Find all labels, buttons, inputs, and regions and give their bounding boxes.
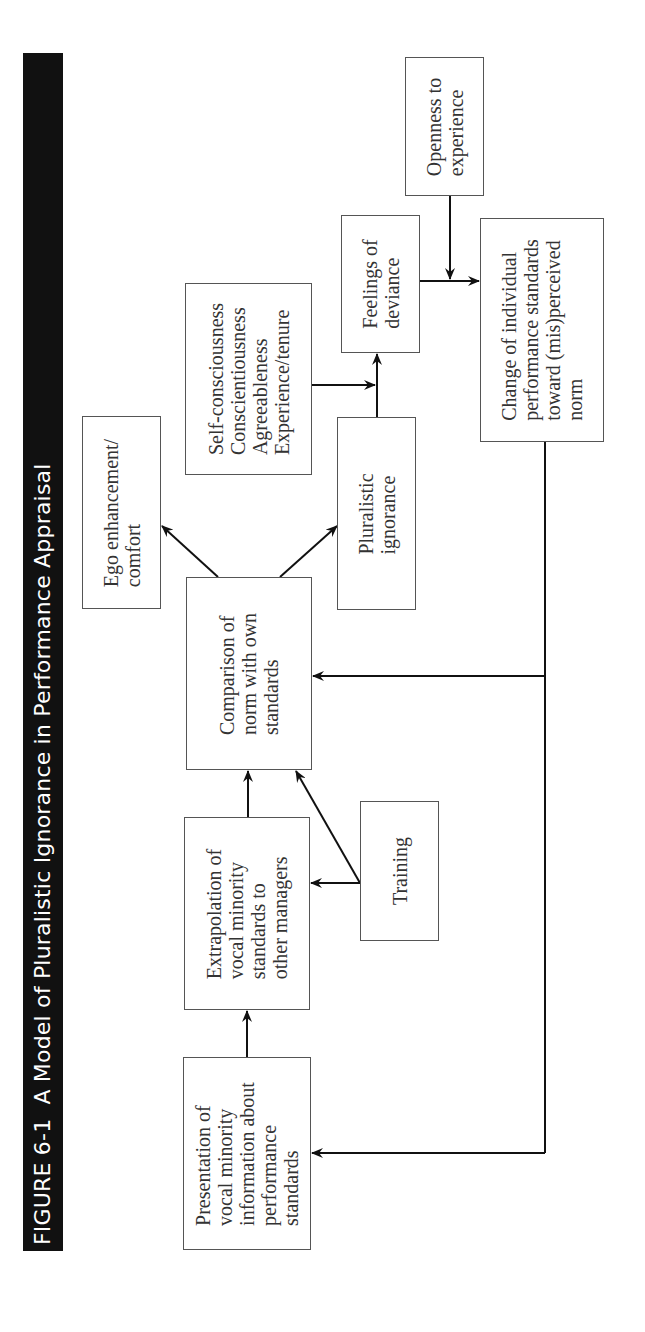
node-pluralistic: Pluralistic ignorance xyxy=(337,417,416,610)
node-ego-label: Ego enhancement/ comfort xyxy=(100,438,144,586)
node-comparison-label: Comparison of norm with own standards xyxy=(216,612,282,734)
arrow-comparison-to-pluralistic xyxy=(280,526,337,577)
node-comparison: Comparison of norm with own standards xyxy=(186,577,312,770)
node-openness: Openness to experience xyxy=(405,57,484,196)
node-openness-label: Openness to experience xyxy=(423,77,467,175)
node-extrapolation: Extrapolation of vocal minority standard… xyxy=(184,817,310,1010)
node-traits: Self-consciousness Conscientiousness Agr… xyxy=(185,283,312,475)
arrow-comparison-to-ego xyxy=(162,526,218,577)
node-feelings: Feelings of deviance xyxy=(341,215,420,353)
node-presentation: Presentation of vocal minority informati… xyxy=(183,1057,311,1250)
node-training: Training xyxy=(360,801,439,941)
node-extrapolation-label: Extrapolation of vocal minority standard… xyxy=(203,848,291,979)
node-change: Change of individual performance standar… xyxy=(480,218,604,442)
node-presentation-label: Presentation of vocal minority informati… xyxy=(192,1082,302,1226)
node-feelings-label: Feelings of deviance xyxy=(359,239,403,328)
node-change-label: Change of individual performance standar… xyxy=(498,239,586,421)
node-ego: Ego enhancement/ comfort xyxy=(82,416,161,609)
node-traits-label: Self-consciousness Conscientiousness Agr… xyxy=(205,303,293,455)
connector-arrows xyxy=(0,0,645,1332)
node-pluralistic-label: Pluralistic ignorance xyxy=(355,473,399,554)
node-training-label: Training xyxy=(389,837,411,905)
